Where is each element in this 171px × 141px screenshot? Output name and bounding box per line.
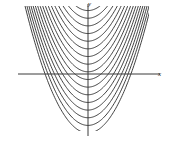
contour-plot-figure: y x <box>0 0 171 141</box>
x-axis-label: x <box>158 71 161 78</box>
plot-canvas <box>0 0 171 141</box>
axes-group <box>18 4 160 136</box>
y-axis-label: y <box>88 1 91 8</box>
